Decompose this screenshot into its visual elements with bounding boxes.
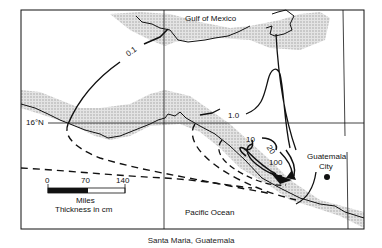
scale-unit: Miles [76, 197, 95, 205]
label-pacific-ocean: Pacific Ocean [185, 209, 234, 217]
label-gulf-of-mexico: Gulf of Mexico [185, 15, 236, 23]
label-latitude-16n: 16°N [25, 119, 45, 127]
meridian-east-upper [343, 10, 345, 136]
scale-bar [48, 184, 125, 193]
scale-tick-0: 0 [45, 177, 49, 185]
guatemala-city-dot-icon [324, 174, 330, 180]
contour-label-1.0: 1.0 [228, 112, 239, 120]
contour-offshore-dashed [21, 168, 252, 188]
scale-tick-70: 70 [81, 177, 90, 185]
scale-legend: Thickness in cm [55, 206, 112, 214]
label-city-line1: Guatemala [307, 153, 346, 161]
label-city-line2: City [319, 163, 333, 171]
contour-label-100: 100 [269, 159, 282, 167]
figure-caption: Santa Maria, Guatemala [0, 236, 382, 245]
scale-tick-140: 140 [116, 177, 129, 185]
contour-label-10: 10 [246, 136, 255, 144]
